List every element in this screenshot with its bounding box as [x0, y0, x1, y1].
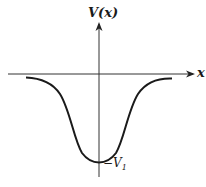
- y-axis-label: V(x): [88, 5, 118, 20]
- x-axis-label: x: [197, 65, 205, 80]
- minimum-label-prefix: −V: [103, 156, 122, 170]
- minimum-label-subscript: 1: [122, 163, 127, 172]
- minimum-label: −V1: [103, 156, 127, 172]
